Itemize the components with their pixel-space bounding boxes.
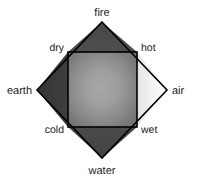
element-diagram-container: fire earth air water dry hot cold wet (0, 0, 203, 181)
label-element-air: air (172, 85, 185, 97)
label-element-fire: fire (94, 7, 109, 19)
label-quality-cold: cold (45, 124, 64, 136)
element-diagram: fire earth air water dry hot cold wet (0, 0, 203, 181)
label-element-earth: earth (7, 85, 32, 97)
label-quality-wet: wet (140, 124, 157, 136)
label-quality-hot: hot (141, 42, 156, 54)
region-center-square (68, 52, 137, 127)
label-element-water: water (88, 165, 116, 177)
label-quality-dry: dry (49, 42, 64, 54)
